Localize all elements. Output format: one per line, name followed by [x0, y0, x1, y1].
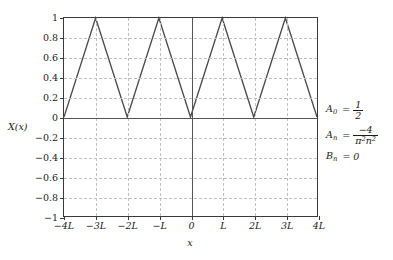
annotation-symbol: A0: [326, 104, 337, 116]
annotation-equals: =: [342, 152, 350, 162]
y-axis-tick-label: 0.8: [43, 33, 58, 43]
y-axis-tick-label: −0.8: [35, 193, 58, 203]
gridline-vertical: [160, 18, 161, 216]
annotation-equals: =: [342, 105, 350, 115]
x-axis-tick-label: 0: [188, 221, 194, 231]
x-axis-tick-label: L: [220, 221, 226, 231]
y-axis-tick: [60, 118, 64, 119]
plot-area: −4L−3L−2L−L0L2L3L4L10.80.60.40.20−0.2−0.…: [63, 17, 318, 217]
y-axis-tick-label: 1: [52, 13, 58, 23]
x-axis-tick-label: −2L: [118, 221, 138, 231]
y-axis-tick-label: 0.4: [43, 73, 58, 83]
fraction-numerator: 1: [353, 100, 363, 110]
fourier-triangle-wave-figure: −4L−3L−2L−L0L2L3L4L10.80.60.40.20−0.2−0.…: [0, 0, 393, 260]
fraction-denominator: π2n2: [353, 135, 378, 146]
x-axis-tick-label: −3L: [86, 221, 106, 231]
x-axis-title: x: [187, 238, 192, 248]
annotation-symbol: An: [326, 130, 337, 142]
y-axis-tick-label: 0: [52, 113, 58, 123]
gridline-horizontal: [64, 178, 317, 179]
y-axis-tick-label: −0.4: [35, 153, 58, 163]
x-axis-tick-label: 2L: [249, 221, 261, 231]
y-axis-tick-label: −0.2: [35, 133, 58, 143]
triangle-wave-line: [64, 18, 317, 117]
annotation-an: An=−4π2n2: [326, 125, 393, 145]
gridline-vertical: [223, 18, 224, 216]
y-zero-axis-line: [192, 18, 193, 216]
gridline-vertical: [96, 18, 97, 216]
x-zero-axis-line: [64, 118, 317, 119]
y-axis-tick: [60, 58, 64, 59]
gridline-horizontal: [64, 138, 317, 139]
y-axis-tick: [60, 38, 64, 39]
fraction-numerator: −4: [357, 125, 375, 135]
y-axis-tick: [60, 178, 64, 179]
y-axis-tick: [60, 98, 64, 99]
gridline-vertical: [287, 18, 288, 216]
x-axis-tick-label: 3L: [281, 221, 293, 231]
annotation-value: 0: [353, 152, 359, 162]
y-axis-tick: [60, 158, 64, 159]
gridline-horizontal: [64, 198, 317, 199]
y-axis-tick: [60, 138, 64, 139]
gridline-horizontal: [64, 98, 317, 99]
y-axis-tick-label: −0.6: [35, 173, 58, 183]
annotation-equals: =: [342, 131, 350, 141]
annotation-fraction: 12: [353, 100, 363, 120]
y-axis-tick-label: 0.6: [43, 53, 58, 63]
y-axis-tick: [60, 218, 64, 219]
annotation-fraction: −4π2n2: [353, 125, 378, 145]
x-axis-tick-label: −L: [152, 221, 166, 231]
gridline-horizontal: [64, 78, 317, 79]
gridline-horizontal: [64, 158, 317, 159]
annotation-symbol: Bn: [326, 151, 337, 163]
gridline-horizontal: [64, 38, 317, 39]
y-axis-tick: [60, 18, 64, 19]
y-axis-title: X(x): [8, 122, 28, 132]
y-axis-tick: [60, 78, 64, 79]
y-axis-tick: [60, 198, 64, 199]
gridline-vertical: [255, 18, 256, 216]
waveform-svg: [64, 18, 317, 216]
x-axis-tick-label: 4L: [313, 221, 325, 231]
fraction-denominator: 2: [353, 110, 363, 121]
gridline-horizontal: [64, 58, 317, 59]
gridline-vertical: [128, 18, 129, 216]
fourier-coefficient-annotations: A0=12An=−4π2n2Bn=0: [326, 100, 393, 168]
y-axis-tick-label: 0.2: [43, 93, 58, 103]
annotation-bn: Bn=0: [326, 151, 393, 163]
annotation-a0: A0=12: [326, 100, 393, 120]
y-axis-tick-label: −1: [44, 213, 58, 223]
